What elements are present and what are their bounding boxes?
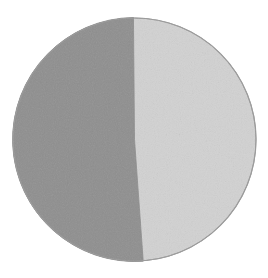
pie-chart-figure: Slice 1 51% Slice 2 49% xyxy=(0,0,268,278)
pie-grain-texture xyxy=(0,0,268,278)
pie-chart-svg xyxy=(0,0,268,278)
